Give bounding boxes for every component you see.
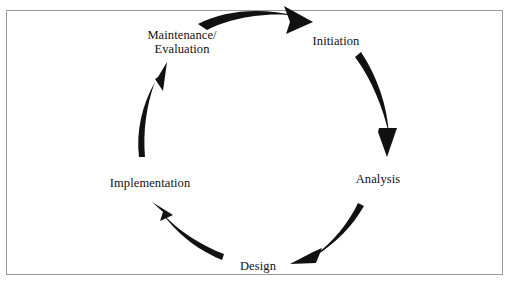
arrow-implementation-to-maintenance <box>138 62 167 157</box>
phase-label-implementation: Implementation <box>92 176 208 190</box>
phase-label-design: Design <box>218 259 298 273</box>
phase-label-analysis: Analysis <box>333 172 423 186</box>
arrow-design-to-implementation <box>152 202 224 260</box>
arrow-initiation-to-analysis <box>355 52 397 157</box>
arrow-analysis-to-design <box>290 203 364 264</box>
phase-label-initiation: Initiation <box>291 34 381 48</box>
phase-label-maintenance: Maintenance/ Evaluation <box>132 28 232 56</box>
cycle-diagram <box>0 0 514 287</box>
